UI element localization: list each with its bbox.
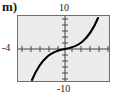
y-axis-min-label: -10: [57, 83, 70, 94]
y-axis-max-label: 10: [59, 2, 69, 13]
problem-item-label: m): [2, 0, 17, 14]
figure-container: m): [0, 0, 118, 100]
x-axis-min-label: -4: [2, 42, 10, 53]
graph-viewing-window: [17, 15, 110, 82]
graph-plot-svg: [18, 16, 109, 81]
